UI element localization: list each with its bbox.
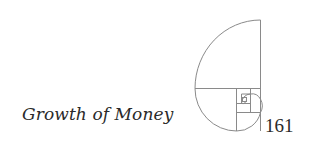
golden-spiral-icon xyxy=(0,0,310,145)
page-number: 161 xyxy=(265,115,294,137)
